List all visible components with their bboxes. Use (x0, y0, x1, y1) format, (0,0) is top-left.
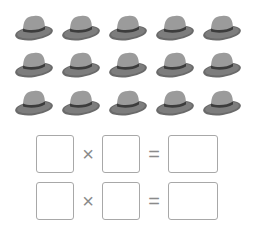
product-input[interactable] (168, 182, 218, 220)
factor-2-input[interactable] (102, 182, 140, 220)
times-sign: × (80, 191, 96, 211)
hat-icon (202, 13, 242, 41)
hat-icon (155, 50, 195, 78)
hat-icon (155, 13, 195, 41)
hat-icon (108, 13, 148, 41)
equals-sign: = (146, 144, 162, 164)
times-sign: × (80, 144, 96, 164)
factor-2-input[interactable] (102, 135, 140, 173)
hat-icon (61, 50, 101, 78)
factor-1-input[interactable] (36, 135, 74, 173)
factor-1-input[interactable] (36, 182, 74, 220)
hat-icon (202, 88, 242, 116)
hat-icon (61, 88, 101, 116)
hat-icon (14, 13, 54, 41)
hat-icon (14, 88, 54, 116)
hat-icon (155, 88, 195, 116)
hat-icon (202, 50, 242, 78)
hat-icon (108, 88, 148, 116)
hat-icon (14, 50, 54, 78)
hat-icon (108, 50, 148, 78)
product-input[interactable] (168, 135, 218, 173)
equals-sign: = (146, 191, 162, 211)
hat-icon (61, 13, 101, 41)
